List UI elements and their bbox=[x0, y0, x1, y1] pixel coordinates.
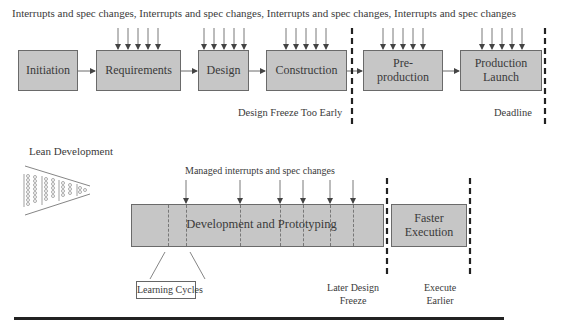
phase-label-line1: Production bbox=[475, 57, 528, 71]
phase-preproduction: Pre- production bbox=[363, 50, 443, 91]
later-design-freeze-label: Later Design Freeze bbox=[322, 281, 384, 307]
bottom-rule bbox=[14, 317, 504, 320]
phase-label: Requirements bbox=[105, 64, 172, 78]
phase-production-launch: Production Launch bbox=[460, 50, 542, 91]
phase-label-line2: Execution bbox=[405, 226, 454, 240]
phase-label: Initiation bbox=[26, 64, 70, 78]
phase-label-line1: Pre- bbox=[393, 57, 413, 71]
phase-label: Construction bbox=[276, 64, 338, 78]
label-line2: Earlier bbox=[415, 294, 465, 307]
funnel-icon bbox=[24, 166, 90, 215]
execute-earlier-label: Execute Earlier bbox=[415, 281, 465, 307]
phase-development-prototyping: Development and Prototyping bbox=[131, 204, 384, 247]
phase-design: Design bbox=[198, 50, 249, 91]
design-freeze-label: Design Freeze Too Early bbox=[238, 107, 342, 118]
phase-requirements: Requirements bbox=[96, 50, 181, 91]
deadline-label: Deadline bbox=[494, 107, 532, 118]
phase-label-line2: production bbox=[377, 71, 429, 85]
spec-change-arrows-preproduction bbox=[383, 28, 423, 49]
managed-change-arrows bbox=[186, 180, 353, 203]
label-line1: Execute bbox=[415, 281, 465, 294]
lean-header: Managed interrupts and spec changes bbox=[185, 165, 335, 176]
lean-title: Lean Development bbox=[29, 145, 113, 157]
label-line1: Later Design bbox=[322, 281, 384, 294]
spec-change-arrows-requirements bbox=[118, 28, 158, 49]
phase-label: Development and Prototyping bbox=[186, 217, 337, 231]
cycle-divider bbox=[353, 205, 354, 246]
label-line2: Freeze bbox=[322, 294, 384, 307]
spec-change-arrows-launch bbox=[482, 28, 522, 49]
learning-cycles-label: Learning Cycles bbox=[136, 281, 196, 299]
phase-label: Design bbox=[207, 64, 241, 78]
phase-initiation: Initiation bbox=[18, 50, 78, 91]
phase-label-line2: Launch bbox=[483, 71, 519, 85]
phase-label-line1: Faster bbox=[414, 212, 443, 226]
phase-construction: Construction bbox=[266, 50, 347, 91]
spec-change-arrows-construction bbox=[286, 28, 326, 49]
learning-cycles-pointers bbox=[150, 252, 205, 279]
cycle-divider bbox=[168, 205, 169, 246]
spec-change-arrows-design bbox=[204, 28, 244, 49]
phase-faster-execution: Faster Execution bbox=[391, 204, 467, 247]
traditional-header: Interrupts and spec changes, Interrupts … bbox=[12, 7, 516, 19]
